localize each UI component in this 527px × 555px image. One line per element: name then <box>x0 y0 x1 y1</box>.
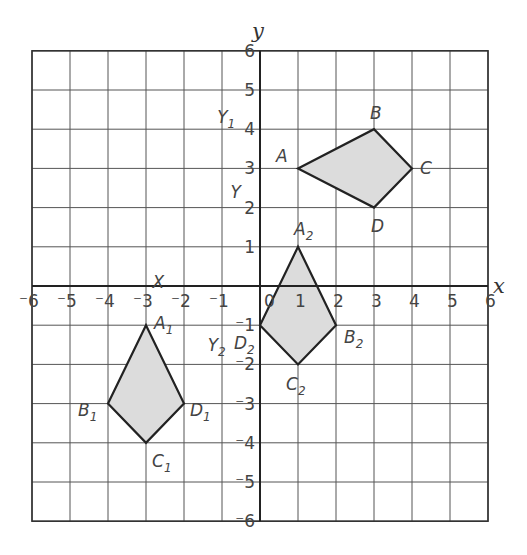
y-tick-label: 2 <box>244 198 255 218</box>
x-tick-label: 2 <box>333 291 344 311</box>
x-tick-label: 5 <box>447 291 458 311</box>
vertex-label-c2: C2 <box>286 374 306 398</box>
y-tick-label: 5 <box>244 80 255 100</box>
y-tick-label: ⁻1 <box>235 315 255 335</box>
x-tick-label: 3 <box>371 291 382 311</box>
y-tick-label: 1 <box>244 237 255 257</box>
kite-a1b1c1d1 <box>108 325 184 443</box>
vertex-label-d: D <box>371 216 384 236</box>
y-tick-label: 6 <box>244 41 255 61</box>
y-tick-label: ⁻3 <box>235 394 255 414</box>
vertex-label-b: B <box>370 103 382 123</box>
x-tick-label: ⁻6 <box>19 291 39 311</box>
x-tick-label: 1 <box>295 291 306 311</box>
x-tick-label: ⁻1 <box>209 291 229 311</box>
x-tick-label: ⁻3 <box>133 291 153 311</box>
x-tick-label: 4 <box>409 291 420 311</box>
vertex-label-a1: A1 <box>153 313 173 337</box>
vertex-label-a2: A2 <box>293 219 313 243</box>
coordinate-grid: ⁻6⁻5⁻4⁻3⁻2⁻10123456654321⁻1⁻2⁻3⁻4⁻5⁻6 AB… <box>0 0 527 555</box>
x-tick-label: ⁻2 <box>171 291 191 311</box>
y-tick-label: ⁻5 <box>235 472 255 492</box>
y-tick-label: ⁻2 <box>235 354 255 374</box>
line-label-y: Y <box>231 182 243 202</box>
x-tick-label: ⁻4 <box>95 291 115 311</box>
vertex-label-a: A <box>275 146 288 166</box>
kite-abcd <box>298 129 412 207</box>
line-label-y1: Y1 <box>217 107 235 131</box>
line-label-y2: Y2 <box>208 335 226 359</box>
line-label-x: X <box>152 272 165 292</box>
vertex-label-b2: B2 <box>344 327 363 351</box>
x-tick-label: ⁻5 <box>57 291 77 311</box>
axes <box>32 51 488 521</box>
x-tick-label: 0 <box>264 291 275 311</box>
vertex-label-c: C <box>420 158 432 178</box>
vertex-label-c1: C1 <box>152 451 172 475</box>
y-axis-label: y <box>251 19 265 43</box>
y-tick-label: ⁻6 <box>235 511 255 531</box>
x-axis-label: x <box>493 274 505 298</box>
y-tick-label: ⁻4 <box>235 433 255 453</box>
y-tick-label: 3 <box>244 158 255 178</box>
y-tick-label: 4 <box>244 119 255 139</box>
